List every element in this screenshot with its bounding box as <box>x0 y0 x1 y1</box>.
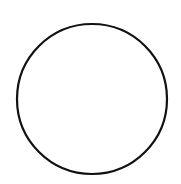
canvas <box>0 0 181 184</box>
circle-shape <box>17 24 167 174</box>
